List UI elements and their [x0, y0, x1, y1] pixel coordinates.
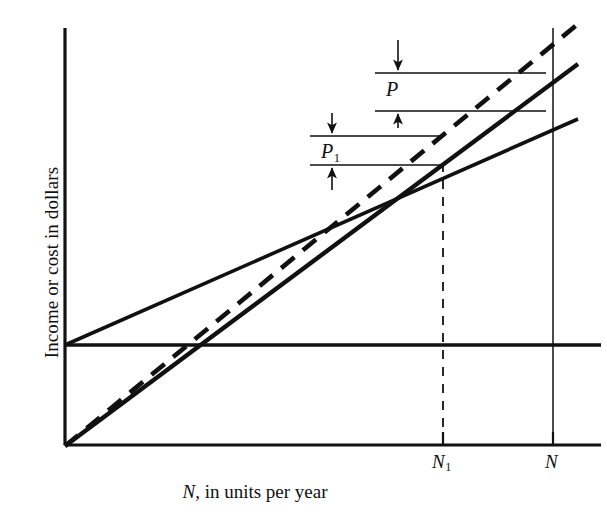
x-tick-label-N1-base: N: [432, 451, 445, 472]
y-axis-label: Income or cost in dollars: [34, 0, 68, 525]
x-tick-label-N1-subscript: 1: [445, 460, 451, 474]
chart-plot-area: [0, 0, 607, 525]
annotation-label-P: P: [386, 79, 398, 99]
x-axis-label-symbol: N: [182, 481, 195, 502]
x-tick-label-N1: N1: [432, 452, 451, 471]
x-tick-label-N: N: [545, 452, 558, 471]
chart-figure: Income or cost in dollars N, in units pe…: [0, 0, 607, 525]
annotation-label-P-base: P: [386, 78, 398, 100]
annotation-label-P1: P1: [321, 141, 339, 161]
x-axis-label: N, in units per year: [65, 482, 445, 501]
x-tick-label-N-base: N: [545, 451, 558, 472]
annotation-label-P1-base: P: [321, 140, 333, 162]
x-axis-label-rest: , in units per year: [195, 481, 327, 502]
annotation-label-P1-subscript: 1: [334, 151, 340, 165]
